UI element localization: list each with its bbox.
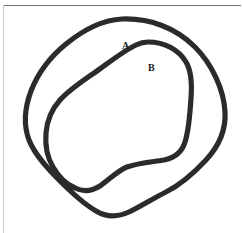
region-label-a: A (122, 41, 129, 51)
region-label-b: B (148, 63, 155, 73)
nested-curves-illustration (0, 0, 243, 233)
inner-closed-curve (46, 42, 192, 190)
figure-canvas: A B (0, 0, 243, 233)
